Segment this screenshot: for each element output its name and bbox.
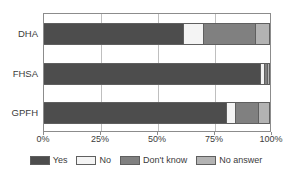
plot-area <box>43 13 271 132</box>
bar-segment <box>259 102 270 124</box>
x-axis-tick-label: 0% <box>36 134 49 144</box>
x-axis-tick-labels: 0%25%50%75%100% <box>0 134 292 148</box>
x-axis-tick-label: 100% <box>259 134 282 144</box>
legend-swatch-icon <box>30 156 50 165</box>
bar-segment <box>268 63 270 85</box>
legend-swatch-icon <box>196 156 216 165</box>
legend-swatch-icon <box>120 156 140 165</box>
y-axis-label-fhsa: FHSA <box>13 67 38 78</box>
bar-row <box>44 102 270 124</box>
y-axis-label-gpfh: GPFH <box>12 107 38 118</box>
x-axis-tick-label: 25% <box>91 134 109 144</box>
stacked-bar-chart: DHAFHSAGPFH 0%25%50%75%100% YesNoDon't k… <box>0 0 292 173</box>
chart-legend: YesNoDon't knowNo answer <box>0 152 292 168</box>
legend-item[interactable]: No answer <box>196 155 262 165</box>
bar-segment <box>44 23 184 45</box>
legend-label: No <box>99 155 111 165</box>
y-axis-label-dha: DHA <box>18 27 38 38</box>
x-axis-tick-label: 50% <box>148 134 166 144</box>
bar-segment <box>184 23 204 45</box>
bar-segment <box>256 23 270 45</box>
bar-segment <box>236 102 259 124</box>
legend-item[interactable]: Don't know <box>120 155 187 165</box>
bar-row <box>44 23 270 45</box>
bar-segment <box>227 102 236 124</box>
legend-label: Don't know <box>143 155 187 165</box>
y-axis-category-labels: DHAFHSAGPFH <box>0 13 40 132</box>
bar-segment <box>44 102 227 124</box>
legend-label: Yes <box>53 155 68 165</box>
legend-swatch-icon <box>76 156 96 165</box>
bar-segment <box>44 63 261 85</box>
legend-item[interactable]: Yes <box>30 155 68 165</box>
bar-row <box>44 63 270 85</box>
legend-label: No answer <box>219 155 262 165</box>
x-axis-tick-label: 75% <box>205 134 223 144</box>
legend-item[interactable]: No <box>76 155 111 165</box>
bar-segment <box>204 23 256 45</box>
